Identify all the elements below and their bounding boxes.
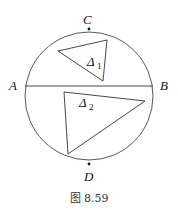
label-delta-1-subscript: 1 (97, 61, 102, 71)
label-a: A (8, 78, 17, 93)
label-d: D (83, 169, 94, 184)
figure-caption: 图 8.59 (70, 192, 109, 205)
circle (25, 32, 153, 160)
label-delta-2: Δ (78, 95, 87, 110)
circle-diagram: C D A B Δ 1 Δ 2 图 8.59 (0, 0, 178, 211)
point-d-dot (88, 163, 91, 166)
label-delta-2-subscript: 2 (89, 102, 94, 112)
label-c: C (83, 12, 92, 27)
triangle-2 (64, 92, 145, 154)
point-c-dot (88, 28, 91, 31)
label-delta-1: Δ (86, 54, 95, 69)
label-b: B (160, 78, 168, 93)
